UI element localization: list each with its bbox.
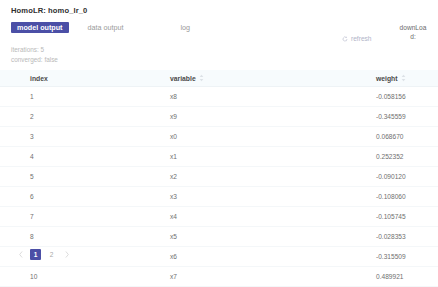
cell-variable: x1 xyxy=(170,153,370,160)
tab-log[interactable]: log xyxy=(181,22,191,33)
pagination: 1 2 xyxy=(16,249,71,260)
cell-index: 6 xyxy=(0,193,170,200)
pagination-prev-button[interactable] xyxy=(16,249,25,260)
tab-data-output[interactable]: data output xyxy=(88,22,124,33)
page-title: HomoLR: homo_lr_0 xyxy=(11,6,87,15)
cell-variable: x2 xyxy=(170,173,370,180)
cell-index: 4 xyxy=(0,153,170,160)
converged-text: converged: false xyxy=(11,55,58,65)
download-label: downLoad: xyxy=(398,23,428,41)
table-row: 8 x5 -0.028353 xyxy=(0,227,438,247)
table-row: 6 x3 -0.108060 xyxy=(0,187,438,207)
cell-weight: -0.108060 xyxy=(370,193,438,200)
pagination-page-2[interactable]: 2 xyxy=(46,249,57,260)
cell-variable: x3 xyxy=(170,193,370,200)
sort-arrows-icon[interactable] xyxy=(199,74,204,82)
cell-index: 10 xyxy=(0,273,170,280)
cell-weight: -0.345559 xyxy=(370,113,438,120)
pagination-next-button[interactable] xyxy=(62,249,71,260)
column-header-weight[interactable]: weight xyxy=(370,74,438,82)
table-header-row: index variable weight xyxy=(0,70,438,87)
pagination-page-1[interactable]: 1 xyxy=(30,249,41,260)
cell-index: 7 xyxy=(0,213,170,220)
cell-index: 2 xyxy=(0,113,170,120)
cell-weight: 0.489921 xyxy=(370,273,438,280)
cell-variable: x4 xyxy=(170,213,370,220)
cell-variable: x6 xyxy=(170,253,370,260)
summary-info: iterations: 5 converged: false xyxy=(11,45,58,65)
cell-index: 1 xyxy=(0,93,170,100)
cell-weight: -0.105745 xyxy=(370,213,438,220)
cell-weight: 0.068670 xyxy=(370,133,438,140)
cell-variable: x0 xyxy=(170,133,370,140)
cell-index: 3 xyxy=(0,133,170,140)
sort-arrows-icon[interactable] xyxy=(401,74,406,82)
cell-variable: x5 xyxy=(170,233,370,240)
table-row: 5 x2 -0.090120 xyxy=(0,167,438,187)
cell-weight: -0.028353 xyxy=(370,233,438,240)
table-row: 2 x9 -0.345559 xyxy=(0,107,438,127)
cell-weight: -0.058156 xyxy=(370,93,438,100)
cell-variable: x7 xyxy=(170,273,370,280)
cell-index: 8 xyxy=(0,233,170,240)
table-row: 10 x7 0.489921 xyxy=(0,267,438,287)
table-row: 3 x0 0.068670 xyxy=(0,127,438,147)
refresh-button[interactable]: refresh xyxy=(342,35,372,42)
tab-model-output[interactable]: model output xyxy=(11,22,69,33)
table-row: 4 x1 0.252352 xyxy=(0,147,438,167)
cell-index: 5 xyxy=(0,173,170,180)
column-header-variable-label: variable xyxy=(170,75,196,82)
tab-bar: model output data output log xyxy=(11,22,190,33)
column-header-weight-label: weight xyxy=(376,75,398,82)
table-row: 7 x4 -0.105745 xyxy=(0,207,438,227)
refresh-label: refresh xyxy=(351,35,372,42)
cell-variable: x9 xyxy=(170,113,370,120)
cell-variable: x8 xyxy=(170,93,370,100)
column-header-index: index xyxy=(0,75,170,82)
cell-weight: 0.252352 xyxy=(370,153,438,160)
cell-weight: -0.090120 xyxy=(370,173,438,180)
cell-weight: -0.315509 xyxy=(370,253,438,260)
table-row: 1 x8 -0.058156 xyxy=(0,87,438,107)
refresh-icon xyxy=(342,36,348,42)
iterations-text: iterations: 5 xyxy=(11,45,58,55)
column-header-variable[interactable]: variable xyxy=(170,74,370,82)
